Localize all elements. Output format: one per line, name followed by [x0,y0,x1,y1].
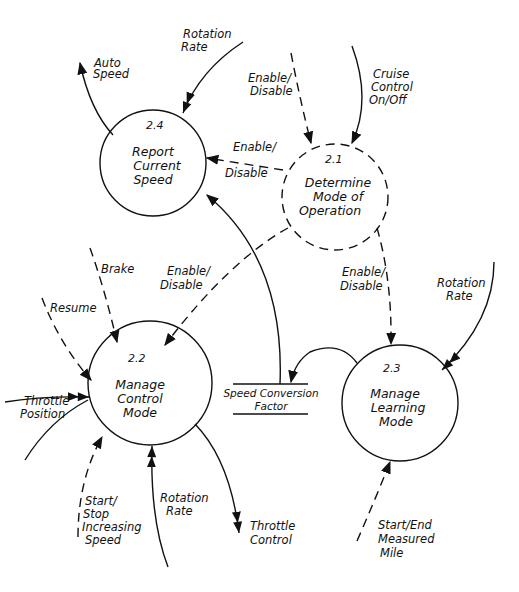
process-2-4[interactable]: 2.4 Report Current Speed [100,110,206,216]
flow-brake-to-2-2[interactable]: Brake [90,248,134,342]
flow-label: Enable/ [342,265,386,279]
flow-enable-disable-2-1-to-2-4[interactable]: Enable/ Disable [207,140,283,180]
flow-2-3-to-data-store[interactable] [291,348,357,382]
flow-label: Speed [85,533,122,547]
process-title-line: Speed [133,172,172,187]
flow-arrow [291,348,357,382]
process-title-line: Report [132,144,175,159]
process-title-line: Learning [371,400,426,415]
flow-enable-disable-2-1-to-2-3[interactable]: Enable/ Disable [340,228,391,344]
flow-label: Disable [225,166,268,180]
store-label-line: Factor [254,400,288,412]
flow-label: Mile [380,546,403,560]
flow-cruise-control-to-2-1[interactable]: Cruise Control On/Off [352,46,414,143]
flow-label: Cruise [373,67,409,81]
flow-label: Increasing [82,520,142,534]
process-title-line: Mode [123,405,157,420]
flow-label: Control [371,80,414,94]
process-title-line: Current [133,158,182,173]
flow-throttle-position-to-2-2[interactable]: Throttle Position [5,394,89,460]
flow-label: Throttle [24,394,69,408]
process-title-line: Manage [115,377,165,392]
process-2-2[interactable]: 2.2 Manage Control Mode [88,321,212,445]
flow-label: Control [250,533,293,547]
flow-label: Disable [160,278,203,292]
process-number: 2.4 [146,119,164,132]
process-title-line: Determine [305,175,372,190]
flow-start-end-measured-mile-to-2-3[interactable]: Start/End Measured Mile [357,462,435,560]
flow-label: Speed [93,67,130,81]
flow-label: Brake [101,262,134,276]
flow-label: Rotation [160,491,209,505]
process-title-line: Mode [379,414,413,429]
flow-label: Rotation [437,276,486,290]
flow-label: Rate [166,504,193,518]
flow-label: Rotation [183,27,232,41]
data-store-speed-conversion-factor[interactable]: Speed Conversion Factor [223,384,318,414]
process-2-3[interactable]: 2.3 Manage Learning Mode [342,345,458,461]
store-label-line: Speed Conversion [223,387,318,399]
data-flow-diagram: 2.4 Report Current Speed 2.1 Determine M… [0,0,519,592]
flow-start-stop-increasing-speed-to-2-2[interactable]: Start/ Stop Increasing Speed [78,437,142,547]
flow-resume-to-2-2[interactable]: Resume [42,298,97,380]
flow-data-store-to-2-4[interactable] [207,195,280,384]
flow-label: Throttle [250,519,295,533]
process-number: 2.2 [128,352,146,365]
flow-rotation-rate-to-2-3[interactable]: Rotation Rate [437,262,494,370]
flow-throttle-control-from-2-2[interactable]: Throttle Control [195,424,295,547]
flow-rotation-rate-to-2-2[interactable]: Rotation Rate [152,446,209,567]
flow-label: Disable [340,279,383,293]
flow-label: Enable/ [248,71,292,85]
process-2-1[interactable]: 2.1 Determine Mode of Operation [282,144,388,250]
flow-label: Rate [446,289,473,303]
process-number: 2.3 [383,362,401,375]
flow-label: Enable/ [233,140,277,154]
flow-enable-disable-to-2-1[interactable]: Enable/ Disable [248,53,311,143]
flow-label: Measured [378,532,435,546]
flow-arrow [291,53,311,143]
flow-label: Stop [83,507,109,521]
process-title-line: Mode of [313,189,365,204]
flow-label: Start/End [378,518,433,532]
flow-label: Resume [50,301,97,315]
flow-arrow [195,424,239,533]
flow-label: Disable [250,84,293,98]
process-title-line: Control [117,391,163,406]
flow-auto-speed-from-2-4[interactable]: Auto Speed [80,56,130,135]
flow-label: Start/ [85,494,118,508]
flow-label: Enable/ [167,264,211,278]
process-title-line: Operation [299,203,361,218]
flow-arrow [352,46,362,143]
process-number: 2.1 [325,153,343,166]
flow-arrow [207,195,280,384]
flow-label: Position [20,407,65,421]
flow-label: On/Off [369,93,408,107]
flow-rotation-rate-to-2-4[interactable]: Rotation Rate [181,27,243,113]
process-title-line: Manage [370,386,420,401]
flow-label: Rate [181,40,208,54]
